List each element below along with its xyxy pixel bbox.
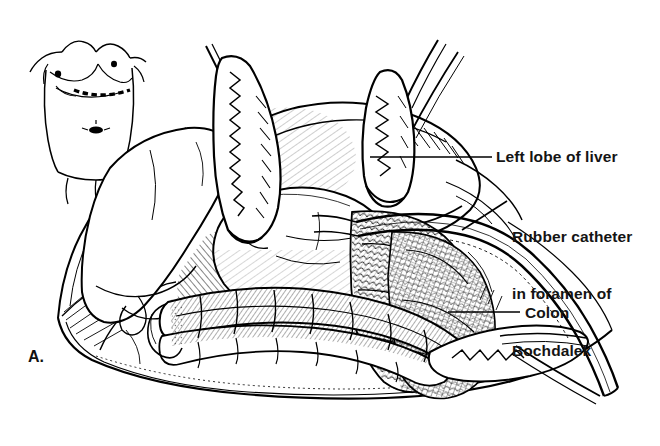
- surgical-illustration-figure: Left lobe of liver Rubber catheter in fo…: [0, 0, 660, 446]
- annotation-rubber-catheter-line2: in foramen of: [512, 284, 632, 303]
- annotation-rubber-catheter-line1: Rubber catheter: [512, 227, 632, 246]
- annotation-left-lobe-of-liver: Left lobe of liver: [496, 147, 618, 166]
- umbilicus-marker: [82, 120, 110, 134]
- incision-line-dashed: [74, 90, 130, 95]
- nipple-right-marker: [111, 61, 117, 67]
- retractor-upper-left: [206, 44, 281, 243]
- panel-letter-label: A.: [28, 348, 44, 366]
- annotation-colon: Colon: [525, 303, 569, 322]
- retractor-blade-1: [213, 56, 280, 243]
- annotation-rubber-catheter: Rubber catheter in foramen of Bochdalek: [512, 189, 632, 398]
- nipple-left-marker: [55, 71, 61, 78]
- annotation-rubber-catheter-line3: Bochdalek: [512, 341, 632, 360]
- retractor-blade-2: [362, 70, 414, 207]
